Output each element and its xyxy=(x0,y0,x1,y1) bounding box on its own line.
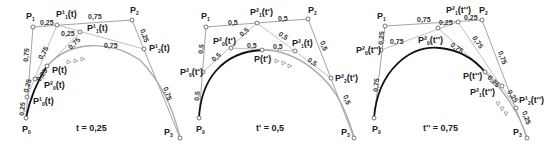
fraction-label: 0,5 xyxy=(210,51,223,63)
node-p3 xyxy=(352,136,356,140)
panel-t-05: P0 P1 P2 P3 P²1(t') P²1(t) P²2(t') P(t')… xyxy=(180,5,358,140)
panel-t-025: P0 P1 P2 P3 P¹1(t) P¹1(t) P¹2(t) P(t) P²… xyxy=(18,5,182,140)
fraction-label: 0,75 xyxy=(470,35,484,51)
fraction-label: 0,75 xyxy=(67,36,82,51)
label-p3: P3 xyxy=(341,127,350,138)
node-p21 xyxy=(500,84,504,88)
arrow-icon xyxy=(282,61,286,65)
parameter-caption: t = 0,25 xyxy=(76,123,107,133)
fraction-label: 0,75 xyxy=(104,42,118,50)
node-p10 xyxy=(25,95,29,99)
label-p12: P²2(t') xyxy=(335,73,358,84)
fraction-label: 0,5 xyxy=(238,26,251,38)
node-p1 xyxy=(383,24,387,28)
fraction-label: 0,75 xyxy=(390,38,404,46)
label-pt: P(t'') xyxy=(463,71,482,81)
node-p12 xyxy=(142,47,146,51)
direction-arrows xyxy=(67,57,85,64)
fraction-label: 0,25 xyxy=(464,14,478,22)
node-pt xyxy=(45,64,49,68)
node-p21 xyxy=(78,30,82,34)
arrow-icon xyxy=(500,107,504,111)
panel-t-075: P0 P1 P2 P3 P²1(t'') P²1(t'') P¹2(t'') P… xyxy=(356,5,544,140)
label-p10: P²0(t'') xyxy=(356,45,381,56)
node-p2 xyxy=(130,18,134,22)
fraction-label: 0,5 xyxy=(306,56,319,68)
node-p3 xyxy=(525,136,529,140)
fraction-label: 0,75 xyxy=(496,50,508,66)
label-p20: P²0(t) xyxy=(44,80,65,91)
direction-arrows xyxy=(275,59,292,68)
node-pt xyxy=(260,48,264,52)
node-p11 xyxy=(55,23,59,27)
fraction-label: 0,75 xyxy=(37,45,51,61)
fraction-label: 0,25 xyxy=(61,30,75,38)
direction-arrows xyxy=(496,102,508,116)
fraction-label: 0,75 xyxy=(22,48,31,62)
node-p3 xyxy=(178,136,182,140)
node-p12 xyxy=(514,106,518,110)
label-p1: P1 xyxy=(377,11,386,22)
label-p10: P²0(t') xyxy=(180,67,203,78)
label-p21: P¹1(t) xyxy=(87,23,108,34)
curve-remaining xyxy=(47,46,180,138)
label-pt: P(t') xyxy=(254,54,271,64)
node-p12 xyxy=(329,76,333,80)
curve-traced xyxy=(199,50,262,118)
label-p2: P2 xyxy=(130,5,139,16)
arrow-icon xyxy=(288,64,292,68)
fraction-label: 0,5 xyxy=(247,42,257,50)
label-p2: P2 xyxy=(308,5,317,16)
node-p20 xyxy=(229,46,233,50)
diagram-canvas: P0 P1 P2 P3 P¹1(t) P¹1(t) P¹2(t) P(t) P²… xyxy=(0,0,557,148)
node-p0 xyxy=(372,116,376,120)
fraction-label: 0,5 xyxy=(278,15,288,23)
label-p1: P1 xyxy=(201,11,210,22)
label-p2: P2 xyxy=(479,5,488,16)
arrow-icon xyxy=(74,59,78,63)
arrow-icon xyxy=(67,60,71,64)
label-p12: P¹2(t'') xyxy=(519,95,544,106)
node-p11 xyxy=(255,21,259,25)
node-p11 xyxy=(456,20,460,24)
node-p2 xyxy=(480,18,484,22)
arrow-icon xyxy=(504,112,508,116)
label-p21: P²1(t) xyxy=(292,38,313,49)
fraction-label: 0,5 xyxy=(228,19,238,27)
fraction-label: 0,25 xyxy=(18,102,27,116)
label-p3: P3 xyxy=(513,127,522,138)
label-p20: P²0(t') xyxy=(213,36,236,47)
label-p20: P²0(t'') xyxy=(418,35,443,46)
node-p20 xyxy=(436,26,440,30)
fraction-label: 0,75 xyxy=(417,16,431,24)
fraction-label: 0,25 xyxy=(40,19,54,27)
node-pt xyxy=(483,70,487,74)
arrow-icon xyxy=(275,59,279,63)
label-p1: P1 xyxy=(26,11,35,22)
label-p0: P0 xyxy=(196,124,205,135)
label-p21: P²1(t'') xyxy=(470,87,495,98)
node-p2 xyxy=(306,17,310,21)
fraction-label: 0,25 xyxy=(138,28,150,44)
node-p21 xyxy=(293,49,297,53)
fraction-label: 0,5 xyxy=(273,43,283,51)
arrow-icon xyxy=(81,57,85,61)
fraction-label: 0,5 xyxy=(277,30,290,42)
fraction-label: 0,25 xyxy=(439,19,453,27)
fraction-label: 0,75 xyxy=(88,13,102,21)
bezier-subdivision-diagram: P0 P1 P2 P3 P¹1(t) P¹1(t) P¹2(t) P(t) P²… xyxy=(0,0,557,148)
label-p0: P0 xyxy=(22,124,31,135)
fraction-label: 0,25 xyxy=(505,89,519,105)
arrow-icon xyxy=(496,102,500,106)
node-p0 xyxy=(197,116,201,120)
node-p1 xyxy=(204,25,208,29)
fraction-label: 0,5 xyxy=(341,94,352,106)
label-pt: P(t) xyxy=(52,65,67,75)
label-p11: P²1(t') xyxy=(250,7,273,18)
label-p10: P¹0(t) xyxy=(33,96,54,107)
label-p12: P¹2(t) xyxy=(149,43,170,54)
label-p3: P3 xyxy=(164,127,173,138)
parameter-caption: t' = 0,5 xyxy=(256,123,284,133)
construction-level-1 xyxy=(381,22,516,108)
label-p0: P0 xyxy=(372,124,381,135)
